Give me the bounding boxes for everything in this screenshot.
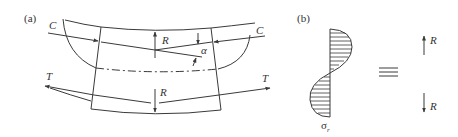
alpha-arrow-bottom	[193, 58, 196, 66]
panel-b-drawing	[310, 29, 424, 117]
block-bottom-edge	[91, 109, 221, 114]
tension-line-right	[219, 88, 270, 95]
alpha-line	[155, 50, 202, 57]
compression-inner-left	[101, 42, 155, 50]
compression-line-left	[48, 33, 98, 41]
label-r-up: R	[430, 35, 437, 46]
label-t-left: T	[46, 71, 52, 82]
label-c-left: C	[49, 20, 56, 31]
outer-arc-bottom-left	[50, 88, 91, 101]
outer-arc-top-left	[65, 20, 101, 27]
compression-line-right	[214, 36, 265, 42]
stress-curve-left	[63, 19, 96, 68]
panel-a-label: (a)	[24, 13, 36, 24]
stress-subscript: r	[327, 126, 330, 134]
label-r-bottom: R	[160, 87, 167, 98]
stress-label: σr	[321, 120, 330, 134]
tension-line-left	[45, 86, 94, 95]
block-top-edge	[101, 27, 211, 30]
neutral-axis	[96, 68, 218, 72]
label-r-top: R	[162, 35, 169, 46]
stress-profile	[310, 29, 352, 117]
diagram-canvas	[0, 0, 458, 137]
label-alpha: α	[201, 45, 207, 56]
label-r-down: R	[430, 101, 437, 112]
tension-inner-right	[159, 95, 219, 103]
label-t-right: T	[262, 73, 268, 84]
outer-arc-top-right	[211, 23, 255, 28]
label-c-right: C	[256, 25, 263, 36]
panel-a-drawing	[45, 19, 270, 114]
tension-inner-left	[94, 95, 151, 103]
panel-b-label: (b)	[297, 13, 310, 24]
